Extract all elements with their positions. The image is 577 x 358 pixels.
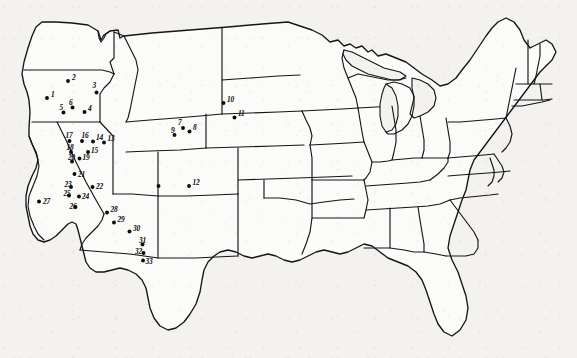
site-label: 19 (83, 153, 90, 162)
site-dot (37, 200, 41, 204)
site-dot (77, 195, 81, 199)
site-label: 26 (69, 202, 77, 211)
site-label: 29 (117, 215, 125, 224)
site-label: 20 (67, 153, 75, 162)
border-maryland-delaware (494, 154, 504, 182)
site-dot (91, 140, 95, 144)
site-dot (45, 96, 49, 100)
site-label: 27 (42, 197, 50, 206)
site-label: 31 (138, 236, 146, 245)
site-label: 12 (193, 178, 200, 187)
site-label: 17 (66, 131, 73, 140)
site-dot (142, 251, 146, 255)
site-dot (141, 259, 145, 263)
site-label: 14 (96, 133, 103, 142)
site-dot (181, 126, 185, 130)
site-dot (187, 184, 191, 188)
site-label: 5 (60, 103, 64, 112)
site-dot (83, 110, 87, 114)
site-label: 30 (132, 224, 140, 233)
site-label: 6 (69, 98, 73, 107)
site-label: 1 (51, 90, 55, 99)
site-label: 4 (87, 104, 92, 113)
site-dot (128, 230, 132, 234)
site-label: 21 (77, 170, 85, 179)
site-label: 24 (81, 192, 89, 201)
site-label: 3 (92, 81, 97, 90)
site-dot (73, 172, 77, 176)
site-label: 22 (95, 182, 103, 191)
border-connecticut-rhodeisland (540, 84, 542, 100)
site-label: 25 (63, 189, 71, 198)
site-label: 33 (145, 257, 153, 266)
sample-site-25: 25 (63, 189, 71, 198)
site-dot (95, 91, 99, 95)
site-dot (157, 184, 161, 188)
site-label: 16 (82, 131, 89, 140)
site-label: 11 (238, 109, 245, 118)
us-outline-map: 1234567891011121314151617181920212223242… (0, 0, 577, 358)
site-label: 32 (134, 247, 142, 256)
site-label: 7 (178, 118, 182, 127)
site-label: 18 (67, 143, 74, 152)
site-dot (112, 221, 116, 225)
site-dot (78, 157, 82, 161)
site-label: 13 (108, 134, 115, 143)
site-dot (91, 185, 95, 189)
site-dot (80, 139, 84, 143)
site-dot (233, 116, 237, 120)
site-label: 23 (64, 180, 72, 189)
sample-site-unlabeled (157, 184, 161, 188)
site-label: 2 (71, 73, 76, 82)
site-label: 8 (193, 123, 197, 132)
site-label: 10 (227, 95, 234, 104)
site-dot (105, 211, 109, 215)
site-dot (66, 79, 70, 83)
national-outline (22, 18, 556, 336)
border-florida-line (446, 240, 478, 256)
site-label: 15 (91, 146, 98, 155)
border-newjersey (502, 118, 512, 152)
site-dot (222, 101, 226, 105)
site-label: 28 (110, 205, 118, 214)
site-dot (188, 130, 192, 134)
site-label: 9 (171, 126, 175, 135)
map-figure: 1234567891011121314151617181920212223242… (0, 0, 577, 358)
sample-site-26: 26 (69, 202, 78, 211)
